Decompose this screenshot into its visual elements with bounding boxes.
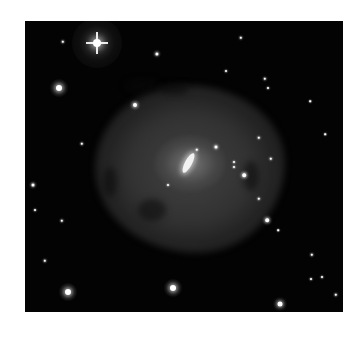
star bbox=[225, 70, 227, 72]
dust-lane bbox=[159, 83, 189, 95]
star bbox=[240, 37, 242, 39]
star bbox=[62, 41, 64, 43]
star bbox=[34, 209, 36, 211]
star bbox=[155, 52, 158, 55]
dust-lane bbox=[103, 167, 117, 197]
star bbox=[265, 218, 269, 222]
star bbox=[321, 276, 323, 278]
star bbox=[233, 166, 235, 168]
star bbox=[170, 285, 176, 291]
star bbox=[61, 220, 63, 222]
star bbox=[278, 302, 283, 307]
star bbox=[267, 87, 269, 89]
star bbox=[310, 278, 312, 280]
dust-lane bbox=[125, 79, 161, 93]
star bbox=[167, 184, 169, 186]
galaxy-image bbox=[25, 21, 343, 312]
star bbox=[56, 85, 62, 91]
star bbox=[264, 78, 266, 80]
star bbox=[215, 146, 218, 149]
star bbox=[277, 229, 279, 231]
star bbox=[65, 289, 71, 295]
star bbox=[242, 173, 246, 177]
star bbox=[311, 254, 313, 256]
star bbox=[133, 103, 137, 107]
star bbox=[335, 294, 337, 296]
dust-lane bbox=[138, 199, 166, 221]
star bbox=[32, 184, 35, 187]
star bbox=[324, 133, 326, 135]
star bbox=[309, 100, 311, 102]
star bbox=[44, 260, 46, 262]
diffraction-spike bbox=[96, 32, 98, 54]
star bbox=[233, 161, 235, 163]
star bbox=[81, 143, 83, 145]
